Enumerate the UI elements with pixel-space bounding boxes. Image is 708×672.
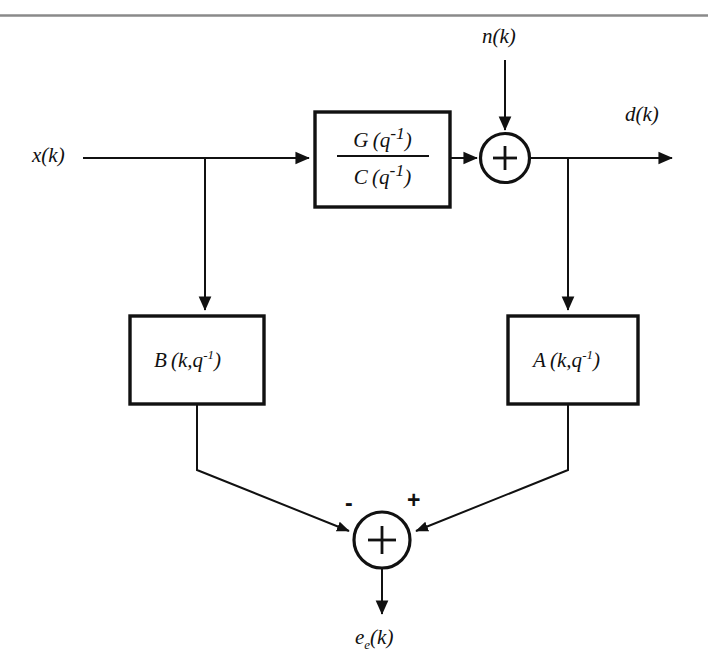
fraction-bar <box>337 155 429 157</box>
plant-numerator: G (q-1) <box>330 123 435 153</box>
plant-denominator: C (q-1) <box>330 160 435 190</box>
filter-b-output-line <box>197 404 349 531</box>
noise-signal-label: n(k) <box>482 26 516 47</box>
plant-output-label: d(k) <box>625 104 659 125</box>
filter-a-output-line <box>416 404 568 531</box>
plant-transfer-function-label: G (q-1) C (q-1) <box>330 123 435 190</box>
input-signal-label: x(k) <box>32 145 65 166</box>
filter-a-label: A (k,q-1) <box>533 348 600 371</box>
error-summer-plus-sign: + <box>407 489 420 512</box>
filter-b-label: B (k,q-1) <box>154 348 221 371</box>
error-summer-minus-sign: - <box>345 492 353 515</box>
error-signal-label: ee(k) <box>355 627 393 651</box>
block-diagram-canvas <box>0 0 708 672</box>
